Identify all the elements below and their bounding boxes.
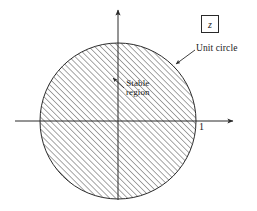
axis-tick-label-one: 1 <box>199 122 204 133</box>
z-plane-badge-label: z <box>202 16 218 32</box>
unit-circle-label: Unit circle <box>196 44 237 54</box>
z-plane-badge: z <box>201 15 219 33</box>
z-plane-figure: Unit circle Stableregion 1 z <box>0 0 257 211</box>
unit-circle-leader-line <box>176 50 195 64</box>
stable-region-label: Stableregion <box>126 79 150 98</box>
stable-region-label-line2: region <box>126 88 150 97</box>
